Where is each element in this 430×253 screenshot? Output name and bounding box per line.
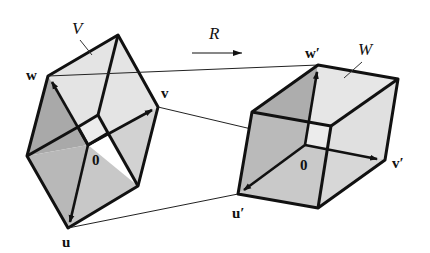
diagram-svg: V w v 0 u: [0, 0, 430, 253]
label-W: W: [358, 40, 374, 59]
label-u: u: [62, 234, 70, 250]
linear-transformation-diagram: V w v 0 u: [0, 0, 430, 253]
label-w: w: [26, 67, 37, 83]
label-origin-right: 0: [300, 157, 308, 173]
label-R: R: [208, 24, 220, 43]
label-u-prime: u′: [232, 205, 245, 221]
label-v: v: [161, 85, 169, 101]
label-origin-left: 0: [92, 152, 100, 168]
label-V: V: [72, 19, 85, 38]
left-parallelepiped-V: V w v 0 u: [26, 19, 169, 250]
label-w-prime: w′: [305, 45, 320, 61]
label-v-prime: v′: [392, 155, 404, 171]
transformation-R: R: [192, 24, 242, 53]
